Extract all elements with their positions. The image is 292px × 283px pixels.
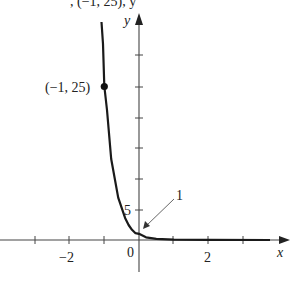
- x-axis-label: x: [276, 245, 284, 260]
- y-axis-arrow-icon: [135, 13, 143, 25]
- x-tick-label-0: 0: [127, 245, 134, 260]
- x-tick-label-neg2: −2: [59, 250, 74, 265]
- point-marker: [101, 83, 108, 90]
- x-axis-arrow-icon: [279, 236, 290, 244]
- graph-canvas: , (−1, 25), y (−1, 25) 1 −2 0 2 5 x y: [0, 0, 292, 283]
- point-label: (−1, 25): [45, 80, 91, 96]
- y-axis-label: y: [122, 13, 131, 28]
- intercept-annotation: 1: [143, 188, 183, 229]
- x-tick-label-2: 2: [204, 250, 211, 265]
- intercept-label: 1: [176, 188, 183, 203]
- annotation-arrow-icon: [143, 221, 150, 229]
- cropped-header-text: , (−1, 25), y: [70, 0, 136, 10]
- y-tick-label-5: 5: [124, 203, 131, 218]
